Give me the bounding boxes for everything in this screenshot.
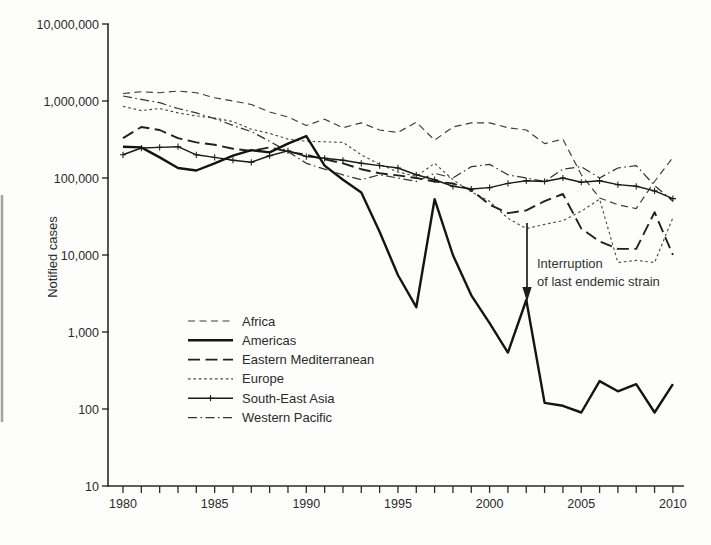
series-line-africa — [123, 91, 673, 209]
series-lines — [120, 91, 676, 413]
series-marker-south-east-asia — [578, 179, 584, 185]
legend-label-western-pacific: Western Pacific — [242, 410, 333, 425]
series-line-eastern-mediterranean — [123, 127, 673, 255]
y-tick-label: 100,000 — [54, 172, 99, 186]
legend-label-south-east-asia: South-East Asia — [242, 391, 335, 406]
y-axis-title: Notified cases — [45, 216, 60, 298]
series-marker-south-east-asia — [523, 178, 529, 184]
y-tick-label: 10 — [85, 480, 99, 494]
x-tick-label: 1985 — [201, 497, 229, 511]
series-marker-south-east-asia — [615, 182, 621, 188]
series-marker-south-east-asia — [395, 165, 401, 171]
measles-notified-cases-figure: 10,000,0001,000,000100,00010,0001,000100… — [0, 0, 711, 545]
series-marker-south-east-asia — [248, 159, 254, 165]
series-marker-south-east-asia — [487, 185, 493, 191]
y-tick-label: 1,000,000 — [43, 95, 99, 109]
series-marker-south-east-asia — [560, 175, 566, 181]
x-tick-label: 2000 — [476, 497, 504, 511]
x-tick-label: 1980 — [109, 497, 137, 511]
y-tick-label: 1,000 — [68, 326, 99, 340]
x-tick-label: 1990 — [292, 497, 320, 511]
series-marker-south-east-asia — [175, 144, 181, 150]
legend-label-africa: Africa — [242, 314, 276, 329]
series-marker-south-east-asia — [670, 196, 676, 202]
series-marker-south-east-asia — [468, 186, 474, 192]
y-tick-label: 10,000,000 — [36, 18, 99, 32]
legend-marker-south-east-asia — [207, 395, 213, 401]
series-marker-south-east-asia — [157, 144, 163, 150]
x-tick-label: 2010 — [659, 497, 687, 511]
series-marker-south-east-asia — [358, 160, 364, 166]
y-tick-label: 100 — [78, 403, 99, 417]
legend-label-americas: Americas — [242, 333, 297, 348]
series-marker-south-east-asia — [651, 188, 657, 194]
series-marker-south-east-asia — [340, 157, 346, 163]
chart-canvas: 10,000,0001,000,000100,00010,0001,000100… — [0, 0, 711, 545]
series-marker-south-east-asia — [505, 180, 511, 186]
legend: AfricaAmericasEastern MediterraneanEurop… — [188, 314, 374, 426]
legend-label-europe: Europe — [242, 371, 284, 386]
axis-spines — [108, 24, 684, 486]
y-tick-label: 10,000 — [61, 249, 99, 263]
series-marker-south-east-asia — [633, 183, 639, 189]
series-marker-south-east-asia — [230, 157, 236, 163]
annotation-text-line1: Interruption — [537, 256, 603, 271]
series-marker-south-east-asia — [596, 178, 602, 184]
series-marker-south-east-asia — [120, 152, 126, 158]
series-marker-south-east-asia — [212, 154, 218, 160]
annotation-arrow-head — [522, 287, 531, 302]
series-line-europe — [123, 106, 673, 262]
series-line-south-east-asia — [123, 147, 673, 199]
series-line-western-pacific — [123, 96, 673, 201]
x-tick-label: 1995 — [384, 497, 412, 511]
x-tick-label: 2005 — [567, 497, 595, 511]
annotation-text-line2: of last endemic strain — [537, 274, 660, 289]
legend-label-eastern-mediterranean: Eastern Mediterranean — [242, 352, 374, 367]
series-marker-south-east-asia — [193, 152, 199, 158]
